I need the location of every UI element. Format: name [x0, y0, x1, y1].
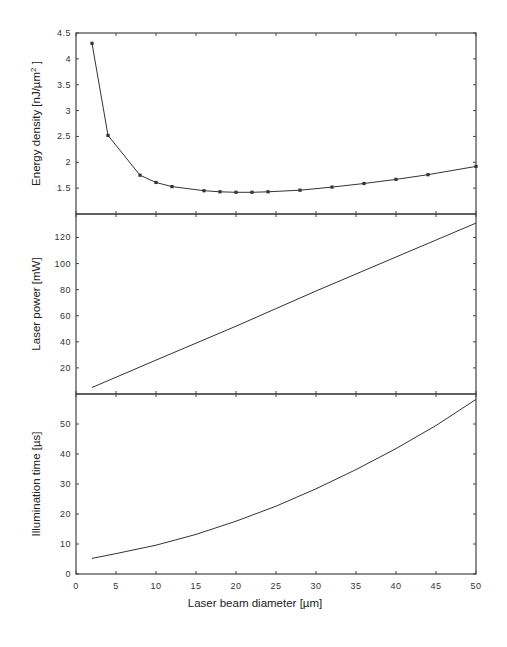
- data-point: [234, 191, 237, 194]
- x-axis-title: Laser beam diameter [µm]: [188, 597, 322, 609]
- y-tick-label: 40: [60, 337, 71, 347]
- data-point: [474, 165, 477, 168]
- y-tick-label: 3.5: [57, 80, 71, 90]
- plot-frame: [76, 214, 476, 394]
- data-point: [426, 173, 429, 176]
- series-line-bottom: [92, 399, 476, 558]
- x-tick-label: 45: [430, 581, 441, 591]
- y-axis-title: Laser power [mW]: [30, 257, 42, 350]
- data-point: [138, 174, 141, 177]
- data-point: [90, 42, 93, 45]
- y-tick-label: 40: [60, 449, 71, 459]
- data-point: [170, 185, 173, 188]
- x-tick-label: 15: [190, 581, 201, 591]
- plot-frame: [76, 394, 476, 574]
- y-tick-label: 2.5: [57, 131, 71, 141]
- plot-frame: [76, 33, 476, 214]
- series-line-top: [92, 43, 476, 192]
- data-point: [106, 134, 109, 137]
- y-tick-label: 20: [60, 509, 71, 519]
- y-tick-label: 4: [65, 54, 71, 64]
- y-tick-label: 0: [65, 569, 71, 579]
- panel-top: 1.522.533.544.5Energy density [nJ/µm2 ]: [29, 28, 478, 214]
- data-point: [266, 190, 269, 193]
- x-tick-label: 10: [150, 581, 161, 591]
- data-point: [202, 189, 205, 192]
- y-tick-label: 4.5: [57, 28, 71, 38]
- data-point: [298, 189, 301, 192]
- y-tick-label: 80: [60, 285, 71, 295]
- y-tick-label: 3: [65, 106, 71, 116]
- x-tick-label: 5: [113, 581, 119, 591]
- y-axis-title: Illumination time [µs]: [30, 431, 42, 536]
- data-point: [394, 178, 397, 181]
- x-tick-label: 40: [390, 581, 401, 591]
- data-point: [250, 191, 253, 194]
- y-tick-label: 2: [65, 157, 71, 167]
- y-tick-label: 120: [54, 232, 71, 242]
- y-tick-label: 100: [54, 259, 71, 269]
- data-point: [362, 182, 365, 185]
- y-tick-label: 1.5: [57, 183, 71, 193]
- y-axis-title: Energy density [nJ/µm2 ]: [29, 61, 42, 186]
- y-tick-label: 30: [60, 479, 71, 489]
- y-tick-label: 50: [60, 419, 71, 429]
- y-tick-label: 60: [60, 311, 71, 321]
- data-point: [154, 181, 157, 184]
- panel-middle: 20406080100120Laser power [mW]: [30, 214, 476, 394]
- chart-figure: 1.522.533.544.5Energy density [nJ/µm2 ]2…: [0, 0, 507, 647]
- series-line-middle: [92, 223, 476, 387]
- data-point: [330, 186, 333, 189]
- x-tick-label: 50: [470, 581, 481, 591]
- x-tick-label: 30: [310, 581, 321, 591]
- y-tick-label: 10: [60, 539, 71, 549]
- data-point: [218, 190, 221, 193]
- y-tick-label: 20: [60, 363, 71, 373]
- panel-bottom: 01020304050Illumination time [µs]: [30, 394, 476, 579]
- x-tick-label: 25: [270, 581, 281, 591]
- x-tick-label: 0: [73, 581, 79, 591]
- x-tick-label: 20: [230, 581, 241, 591]
- x-tick-label: 35: [350, 581, 361, 591]
